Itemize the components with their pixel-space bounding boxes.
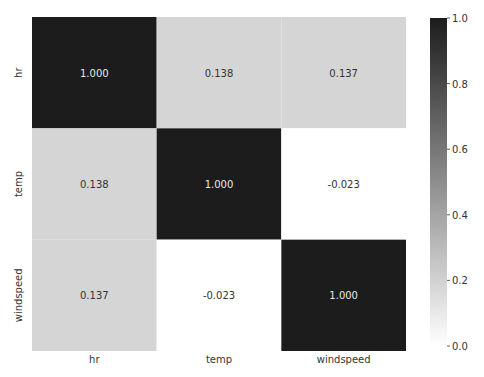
colorbar bbox=[430, 18, 447, 346]
x-tick-label: temp bbox=[206, 354, 232, 365]
cell-annotation: 1.000 bbox=[80, 68, 109, 79]
x-tick-label: windspeed bbox=[317, 354, 371, 365]
cell-annotation: 0.138 bbox=[80, 179, 109, 190]
colorbar-gradient bbox=[430, 18, 447, 346]
colorbar-tick-label: 0.2 bbox=[452, 275, 468, 286]
colorbar-tick-label: 1.0 bbox=[452, 13, 468, 24]
cell-annotation: 0.137 bbox=[329, 68, 358, 79]
colorbar-tick-label: 0.4 bbox=[452, 210, 468, 221]
y-axis-ticks: hrtempwindspeed bbox=[13, 67, 24, 323]
y-tick-label: hr bbox=[13, 67, 24, 78]
heatmap-chart: 1.0000.1380.1370.1381.000-0.0230.137-0.0… bbox=[0, 0, 484, 377]
cell-annotation: 0.137 bbox=[80, 290, 109, 301]
y-tick-label: temp bbox=[13, 171, 24, 197]
y-tick-label: windspeed bbox=[13, 268, 24, 322]
cell-annotation: 1.000 bbox=[205, 179, 234, 190]
cell-annotation: -0.023 bbox=[203, 290, 235, 301]
colorbar-ticks: 0.00.20.40.60.81.0 bbox=[447, 13, 468, 352]
colorbar-tick-label: 0.8 bbox=[452, 79, 468, 90]
cell-annotation: -0.023 bbox=[328, 179, 360, 190]
x-axis-ticks: hrtempwindspeed bbox=[89, 354, 370, 365]
colorbar-tick-label: 0.0 bbox=[452, 341, 468, 352]
colorbar-tick-label: 0.6 bbox=[452, 144, 468, 155]
x-tick-label: hr bbox=[89, 354, 100, 365]
cell-annotation: 0.138 bbox=[205, 68, 234, 79]
cell-annotation: 1.000 bbox=[329, 290, 358, 301]
